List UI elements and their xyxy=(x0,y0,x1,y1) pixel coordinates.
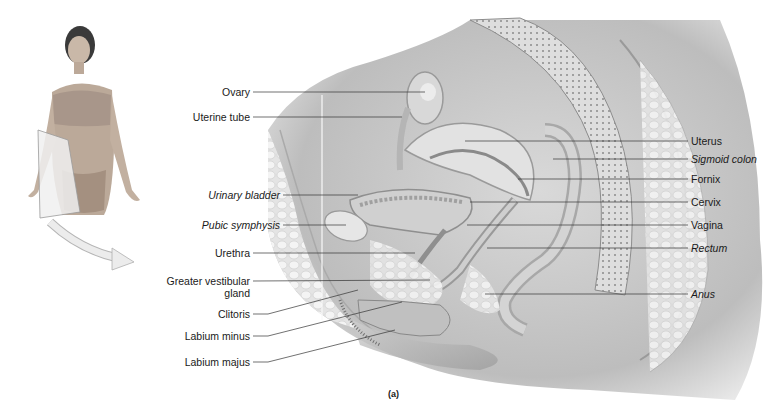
label-anus: Anus xyxy=(691,288,715,300)
label-clitoris: Clitoris xyxy=(218,308,250,320)
label-line-2: gland xyxy=(167,287,250,299)
inset-figure xyxy=(28,26,140,270)
label-uterus: Uterus xyxy=(691,135,722,147)
label-sigmoid-colon: Sigmoid colon xyxy=(691,153,757,165)
label-labium-minus: Labium minus xyxy=(185,330,250,342)
label-greater-vestibular-gland: Greater vestibular gland xyxy=(167,275,250,299)
label-pubic-symphysis: Pubic symphysis xyxy=(202,219,280,231)
label-urinary-bladder: Urinary bladder xyxy=(208,189,280,201)
label-uterine-tube: Uterine tube xyxy=(193,111,250,123)
figure-caption: (a) xyxy=(388,389,399,399)
label-cervix: Cervix xyxy=(691,196,721,208)
sagittal-section xyxy=(268,18,762,400)
anatomy-figure: Ovary Uterine tube Urinary bladder Pubic… xyxy=(0,0,778,420)
label-rectum: Rectum xyxy=(691,242,727,254)
label-vagina: Vagina xyxy=(691,219,723,231)
label-labium-majus: Labium majus xyxy=(185,356,250,368)
label-line-1: Greater vestibular xyxy=(167,275,250,287)
label-fornix: Fornix xyxy=(691,173,720,185)
label-ovary: Ovary xyxy=(222,86,250,98)
illustration xyxy=(0,0,778,420)
label-urethra: Urethra xyxy=(215,247,250,259)
